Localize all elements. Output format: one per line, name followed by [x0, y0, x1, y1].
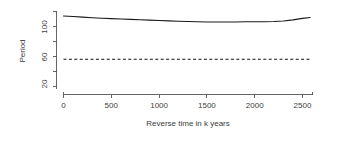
x-tick-label-500: 500	[105, 101, 119, 110]
x-tick-label-0: 0	[61, 101, 66, 110]
x-tick-label-2000: 2000	[246, 101, 264, 110]
plot-canvas: 100 60 20 Period 0 500 1000 1500 2000 25…	[0, 0, 338, 144]
y-axis-title: Period	[18, 39, 27, 62]
x-tick-label-1000: 1000	[150, 101, 168, 110]
y-tick-label-60: 60	[40, 52, 49, 61]
series-period-curve	[64, 16, 311, 22]
x-axis-title: Reverse time in k years	[146, 119, 230, 128]
x-tick-label-1500: 1500	[198, 101, 216, 110]
y-tick-label-100: 100	[40, 20, 49, 34]
y-tick-label-20: 20	[40, 79, 49, 88]
chart-figure: 100 60 20 Period 0 500 1000 1500 2000 25…	[0, 0, 338, 144]
x-tick-label-2500: 2500	[294, 101, 312, 110]
